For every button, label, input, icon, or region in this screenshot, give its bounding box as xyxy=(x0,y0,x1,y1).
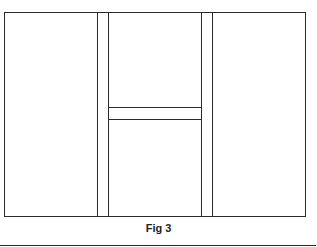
left-divider-inner xyxy=(108,12,109,217)
right-divider-inner xyxy=(201,12,202,217)
bottom-rule xyxy=(0,245,316,246)
left-divider-outer xyxy=(97,12,98,217)
figure-caption: Fig 3 xyxy=(0,222,317,234)
outer-right-edge xyxy=(305,12,306,217)
center-divider-bottom xyxy=(108,119,202,120)
outer-left-edge xyxy=(4,12,5,217)
outer-bottom-edge xyxy=(4,216,306,217)
right-divider-outer xyxy=(212,12,213,217)
outer-top-edge xyxy=(4,12,306,13)
center-divider-top xyxy=(108,107,202,108)
